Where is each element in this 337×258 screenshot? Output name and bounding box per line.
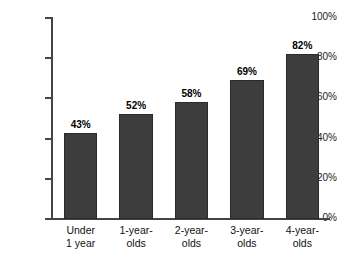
x-axis-category-line: 2-year- xyxy=(164,224,219,237)
y-axis-tick xyxy=(45,97,52,99)
bar-value-label: 43% xyxy=(52,119,109,130)
bar[interactable] xyxy=(64,133,97,219)
y-axis-tick xyxy=(45,17,52,19)
x-axis-categories: Under1 year1-year-olds2-year-olds3-year-… xyxy=(53,224,330,254)
x-axis-category-label: 1-year-olds xyxy=(108,224,163,250)
y-axis-tick xyxy=(45,57,52,59)
bar[interactable] xyxy=(119,114,152,219)
x-axis-category-label: 3-year-olds xyxy=(219,224,274,250)
bar-group: 58% xyxy=(164,18,219,219)
x-axis-category-line: olds xyxy=(219,237,274,250)
x-axis-category-line: olds xyxy=(164,237,219,250)
x-axis-category-line: 4-year- xyxy=(275,224,330,237)
y-axis-tick xyxy=(45,138,52,140)
y-axis-tick xyxy=(45,218,52,220)
y-axis-tick xyxy=(45,178,52,180)
x-axis-category-line: Under xyxy=(53,224,108,237)
x-axis-category-line: 3-year- xyxy=(219,224,274,237)
x-axis-category-label: Under1 year xyxy=(53,224,108,250)
x-axis-category-label: 4-year-olds xyxy=(275,224,330,250)
bar-group: 69% xyxy=(219,18,274,219)
bar-chart: 0%20%40%60%80%100% 43%52%58%69%82% Under… xyxy=(0,0,337,258)
bar-value-label: 52% xyxy=(107,100,164,111)
bar-group: 43% xyxy=(53,18,108,219)
bar-group: 82% xyxy=(275,18,330,219)
bar-value-label: 69% xyxy=(218,66,275,77)
x-axis-category-line: olds xyxy=(275,237,330,250)
bar-value-label: 82% xyxy=(274,40,331,51)
x-axis-category-line: 1 year xyxy=(53,237,108,250)
x-axis-category-line: 1-year- xyxy=(108,224,163,237)
plot-area: 43%52%58%69%82% xyxy=(53,18,330,219)
x-axis-category-label: 2-year-olds xyxy=(164,224,219,250)
bar[interactable] xyxy=(230,80,263,219)
x-axis-category-line: olds xyxy=(108,237,163,250)
bar[interactable] xyxy=(286,54,319,219)
bar[interactable] xyxy=(175,102,208,219)
bar-value-label: 58% xyxy=(163,88,220,99)
bar-group: 52% xyxy=(108,18,163,219)
